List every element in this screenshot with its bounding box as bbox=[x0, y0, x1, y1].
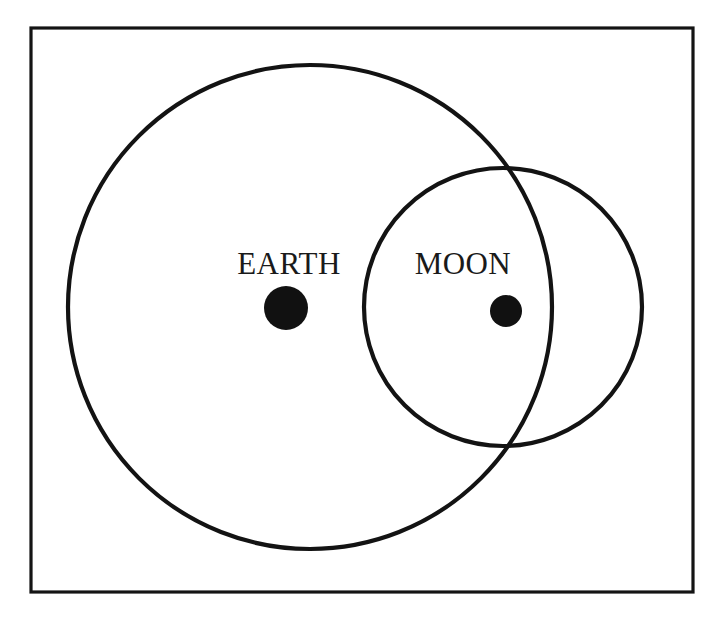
earth-circle bbox=[68, 65, 552, 549]
earth-label: EARTH bbox=[237, 248, 340, 279]
moon-label: MOON bbox=[415, 248, 511, 279]
earth-center-dot bbox=[264, 286, 308, 330]
diagram-canvas bbox=[0, 0, 724, 620]
figure-root: EARTH MOON bbox=[0, 0, 724, 620]
moon-center-dot bbox=[490, 295, 522, 327]
